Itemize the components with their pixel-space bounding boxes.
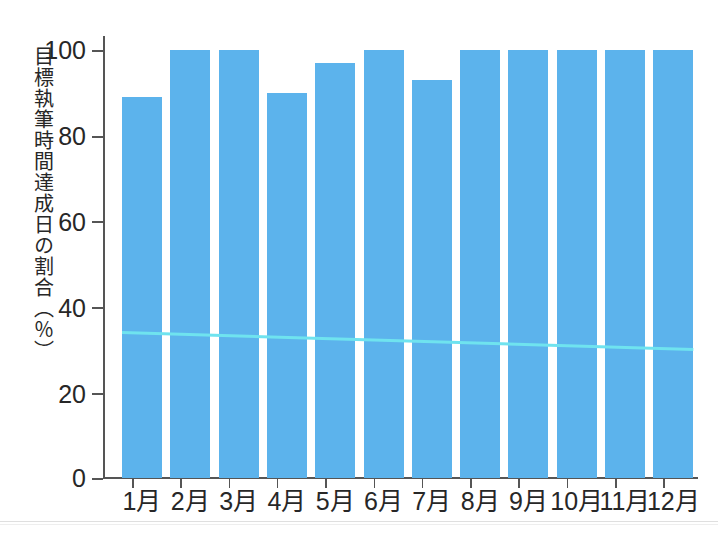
- scan-artifact-line-2: [0, 524, 718, 525]
- bar-4月: [267, 93, 307, 478]
- y-tick-label-100: 100: [0, 38, 86, 63]
- y-tick-label-20: 20: [0, 382, 86, 407]
- bar-2月: [170, 50, 210, 478]
- y-tick-mark-60: [92, 221, 103, 223]
- bar-8月: [460, 50, 500, 478]
- y-tick-label-0: 0: [0, 466, 86, 491]
- bar-6月: [364, 50, 404, 478]
- y-tick-mark-0: [92, 478, 103, 480]
- x-tick-label-12月: 12月: [641, 489, 705, 514]
- bar-12月: [653, 50, 693, 478]
- bar-3月: [219, 50, 259, 478]
- y-tick-mark-40: [92, 307, 103, 309]
- y-tick-label-60: 60: [0, 210, 86, 235]
- bar-7月: [412, 80, 452, 478]
- bars-layer: [103, 36, 698, 478]
- bar-10月: [557, 50, 597, 478]
- y-tick-label-80: 80: [0, 124, 86, 149]
- scan-artifact-line: [0, 521, 718, 522]
- y-tick-mark-80: [92, 136, 103, 138]
- bar-9月: [508, 50, 548, 478]
- bar-5月: [315, 63, 355, 478]
- y-axis-title: 目標執筆時間達成日の割合（％）: [22, 46, 62, 476]
- bar-11月: [605, 50, 645, 478]
- bar-1月: [122, 97, 162, 478]
- y-tick-label-40: 40: [0, 296, 86, 321]
- bar-chart-figure: 目標執筆時間達成日の割合（％） 100 80 60 40 20 0 1月2月3月…: [0, 0, 718, 535]
- y-tick-mark-20: [92, 393, 103, 395]
- y-tick-mark-100: [92, 50, 103, 52]
